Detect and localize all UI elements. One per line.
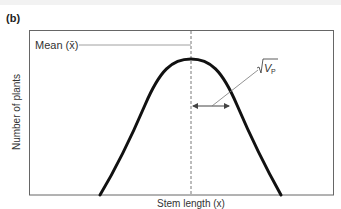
mean-label: Mean (x̄) xyxy=(35,39,78,51)
plot-frame xyxy=(30,31,334,196)
x-axis-label: Stem length (x) xyxy=(157,198,225,209)
y-axis-label: Number of plants xyxy=(11,74,22,150)
variance-label: V P xyxy=(257,59,278,75)
bell-curve xyxy=(100,59,281,195)
distribution-diagram: V P Mean (x̄) Stem length (x) Number of … xyxy=(0,0,341,209)
variance-subscript: P xyxy=(271,68,276,75)
